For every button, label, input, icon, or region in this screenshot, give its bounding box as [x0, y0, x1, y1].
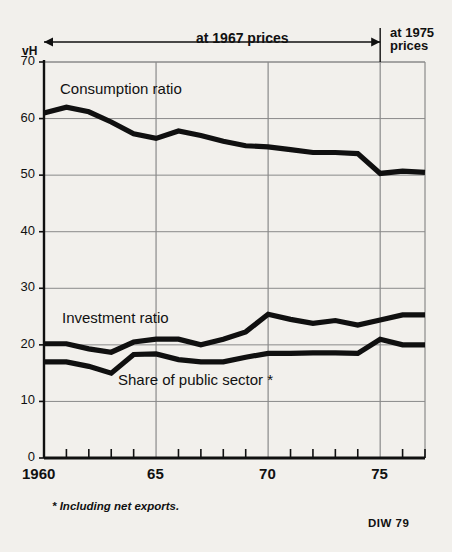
y-tick-label: 30: [0, 279, 35, 294]
y-tick-label: 70: [0, 53, 35, 68]
y-tick-label: 40: [0, 223, 35, 238]
public-sector-share-line: [44, 339, 425, 373]
y-tick-label: 20: [0, 336, 35, 351]
period-left-annotation: at 1967 prices: [196, 30, 289, 46]
consumption-ratio-line: [44, 107, 425, 173]
x-tick-label: 75: [371, 465, 388, 482]
series-label-investment: Investment ratio: [62, 309, 169, 326]
source-credit: DIW 79: [368, 517, 409, 529]
y-tick-label: 0: [0, 449, 35, 464]
y-tick-label: 60: [0, 110, 35, 125]
y-tick-label: 10: [0, 392, 35, 407]
period-right-line2: prices: [390, 39, 434, 52]
series-label-public-sector: Share of public sector *: [118, 371, 273, 388]
series-label-consumption: Consumption ratio: [60, 80, 182, 97]
period-right-annotation: at 1975 prices: [390, 26, 434, 52]
x-tick-label: 70: [259, 465, 276, 482]
chart-figure: vH at 1967 prices at 1975 prices Consump…: [0, 0, 452, 552]
footnote-text: * Including net exports.: [52, 500, 179, 512]
x-tick-label: 1960: [22, 465, 55, 482]
x-tick-label: 65: [147, 465, 164, 482]
y-tick-label: 50: [0, 166, 35, 181]
